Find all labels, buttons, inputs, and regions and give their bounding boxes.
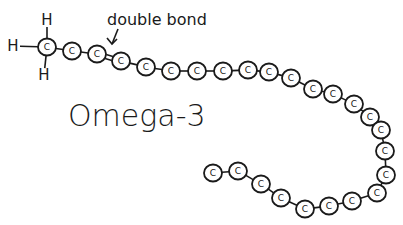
single-bond (222, 172, 229, 173)
carbon-atom: C (320, 198, 338, 215)
hydrogen-bond (20, 46, 38, 47)
carbon-atom: C (372, 122, 390, 139)
carbon-atom: C (368, 185, 386, 202)
carbon-atom: C (282, 70, 300, 87)
svg-text:C: C (220, 66, 226, 76)
svg-text:C: C (118, 56, 124, 66)
carbon-atom: C (63, 43, 81, 60)
omega-3-title: Omega-3 (68, 98, 206, 133)
svg-text:C: C (210, 168, 216, 178)
svg-text:C: C (367, 112, 373, 122)
double-bond (105, 58, 112, 60)
omega-3-diagram: CCCCCCCCCCCCCCCCCCCCCCCCCC HHH double bo… (0, 0, 403, 225)
svg-text:C: C (245, 65, 251, 75)
carbon-atom: C (376, 143, 394, 160)
carbon-atom: C (229, 163, 247, 180)
single-bond (299, 82, 305, 85)
svg-text:C: C (288, 73, 294, 83)
carbon-atom: C (343, 193, 361, 210)
carbon-atom: C (345, 96, 363, 113)
double-bond (106, 55, 113, 57)
double-bond-label: double bond (107, 10, 207, 29)
svg-text:C: C (235, 166, 241, 176)
svg-text:C: C (168, 66, 174, 76)
svg-text:C: C (326, 201, 332, 211)
hydrogen-atom: H (7, 37, 18, 55)
single-bond (383, 139, 384, 142)
single-bond (130, 63, 137, 65)
carbon-atom: C (112, 53, 130, 70)
svg-text:C: C (383, 170, 389, 180)
single-bond (361, 196, 369, 199)
svg-text:C: C (330, 89, 336, 99)
carbon-atom: C (304, 81, 322, 98)
svg-text:C: C (258, 179, 264, 189)
carbon-atom: C (377, 167, 395, 184)
carbon-atom: C (260, 64, 278, 81)
arrow-icon (107, 29, 118, 44)
carbon-atom: C (272, 190, 290, 207)
svg-text:C: C (310, 84, 316, 94)
svg-text:C: C (302, 204, 308, 214)
svg-text:C: C (194, 66, 200, 76)
carbon-atom: C (296, 201, 314, 218)
single-bond (246, 175, 253, 179)
carbon-atom: C (324, 86, 342, 103)
svg-text:C: C (351, 99, 357, 109)
carbon-atom: C (88, 46, 106, 63)
single-bond (268, 189, 273, 193)
svg-text:C: C (143, 62, 149, 72)
hydrogen-atom: H (38, 66, 49, 84)
svg-text:C: C (44, 42, 50, 52)
svg-text:C: C (378, 125, 384, 135)
carbon-atom: C (239, 62, 257, 79)
single-bond (314, 207, 320, 208)
svg-text:C: C (349, 196, 355, 206)
single-bond (289, 202, 297, 206)
carbon-atom: C (188, 63, 206, 80)
hydrogen-atom: H (41, 11, 52, 29)
svg-text:C: C (278, 193, 284, 203)
single-bond (155, 68, 162, 69)
carbon-atom: C (252, 176, 270, 193)
carbon-atom: C (38, 39, 56, 56)
svg-text:C: C (94, 49, 100, 59)
svg-text:C: C (382, 146, 388, 156)
svg-text:C: C (266, 67, 272, 77)
svg-text:C: C (374, 188, 380, 198)
carbon-atom: C (204, 165, 222, 182)
carbon-atom: C (162, 63, 180, 80)
carbon-atom: C (137, 59, 155, 76)
single-bond (81, 52, 88, 53)
carbon-atom: C (214, 63, 232, 80)
single-bond (56, 48, 63, 49)
svg-text:C: C (69, 46, 75, 56)
